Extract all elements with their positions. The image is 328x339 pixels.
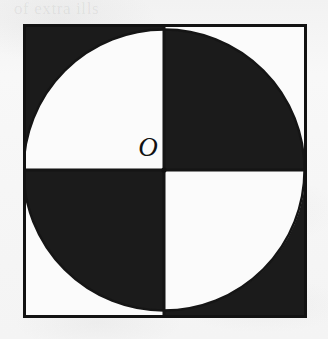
origin-point-dot [161, 167, 166, 172]
figure-svg [23, 24, 307, 318]
scanned-page: of extra ills with the area of the [0, 0, 328, 339]
ghost-bleed-text-line-1: of extra ills [14, 0, 99, 19]
geometry-figure: O [23, 24, 307, 318]
